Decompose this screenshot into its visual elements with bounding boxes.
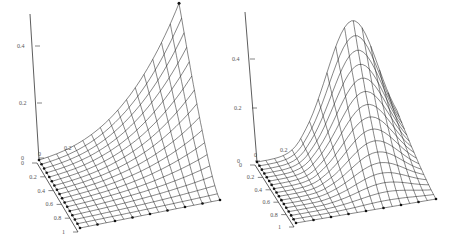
edge-node (166, 209, 169, 212)
x-tick-label: 0.4 (255, 187, 263, 193)
mesh-line-u (70, 166, 210, 211)
edge-node (61, 197, 64, 200)
edge-node (256, 161, 259, 164)
x-tick-label: 0.6 (46, 201, 54, 207)
y-tick-label: 0.2 (280, 147, 288, 153)
z-axis (30, 14, 39, 160)
edge-node (51, 180, 54, 183)
edge-node (45, 171, 48, 174)
edge-node (56, 188, 59, 191)
mesh-line-v (292, 150, 331, 217)
edge-node (40, 163, 43, 166)
edge-node (275, 191, 278, 194)
edge-node (280, 199, 283, 202)
x-tick-label: 0.2 (247, 174, 255, 180)
mesh-line-u (289, 182, 429, 212)
edge-node (131, 216, 134, 219)
edge-node (417, 201, 420, 204)
edge-node (435, 198, 438, 201)
edge-node (365, 210, 368, 213)
mesh-line-u (60, 117, 200, 194)
edge-node (283, 203, 286, 206)
edge-node (330, 216, 333, 219)
x-tick-label: 1 (278, 224, 281, 230)
mesh-line-v (57, 154, 98, 225)
edge-node (270, 184, 273, 187)
edge-node (58, 193, 61, 196)
z-axis (245, 12, 257, 162)
x-tick-label: 0 (21, 160, 24, 166)
mesh-line-v (397, 111, 436, 200)
edge-node (285, 206, 288, 209)
edge-node (48, 176, 51, 179)
edge-node (347, 213, 350, 216)
x-tick-label: 0.4 (37, 188, 45, 194)
edge-node (273, 187, 276, 190)
edge-node (287, 210, 290, 213)
edge-node (201, 202, 204, 205)
edge-node (278, 195, 281, 198)
mesh-line-u (54, 90, 194, 186)
edge-node (53, 184, 56, 187)
x-tick-label: 1 (62, 229, 65, 235)
edge-node (268, 180, 271, 183)
edge-node (68, 210, 71, 213)
edge-node (290, 214, 293, 217)
edge-node (292, 218, 295, 221)
y-tick-label: 0 (254, 152, 257, 158)
edge-node (261, 168, 264, 171)
z-tick-label: 0.4 (17, 43, 25, 49)
mesh-line-u (274, 117, 414, 189)
edge-node (258, 165, 261, 168)
mesh-line-v (162, 43, 203, 204)
mesh-line-v (144, 74, 185, 207)
edge-node (76, 222, 79, 225)
z-tick-label: 0.2 (234, 105, 242, 111)
edge-node (66, 205, 69, 208)
edge-node (79, 227, 82, 230)
edge-node (74, 218, 77, 221)
z-tick-label: 0.2 (19, 100, 27, 106)
mesh-line-v (362, 28, 401, 205)
x-tick-label: 0.8 (270, 212, 278, 218)
edge-node (38, 159, 41, 162)
surface-plot-right: 0.40.2000.20.40.60.8100.2 (232, 12, 437, 230)
mesh-line-v (65, 150, 106, 223)
mesh-line-u (57, 104, 197, 190)
peak-node (178, 2, 181, 5)
edge-node (43, 167, 46, 170)
edge-node (114, 220, 117, 223)
edge-node (400, 204, 403, 207)
mesh-line-v (353, 21, 392, 207)
x-tick-label: 0.8 (54, 215, 62, 221)
edge-node (149, 213, 152, 216)
edge-node (263, 172, 266, 175)
edge-node (295, 222, 298, 225)
edge-node (63, 201, 66, 204)
mesh-line-u (75, 186, 215, 220)
edge-node (312, 219, 315, 222)
y-tick-label: 0 (38, 151, 41, 157)
edge-node (265, 176, 268, 179)
mesh-line-v (371, 46, 410, 203)
mesh-line-u (72, 176, 212, 215)
mesh-line-v (92, 135, 133, 218)
edge-node (219, 199, 222, 202)
surface-plot-left: 0.40.2000.20.40.60.8100.2 (17, 2, 221, 235)
mesh-line-u (52, 76, 192, 181)
mesh-line-v (153, 59, 194, 205)
x-tick-label: 0.2 (29, 174, 37, 180)
edge-node (382, 207, 385, 210)
z-tick-label: 0.4 (232, 56, 240, 62)
edge-node (184, 206, 187, 209)
x-tick-label: 0 (239, 162, 242, 168)
edge-node (96, 223, 99, 226)
surface-plots-canvas: 0.40.2000.20.40.60.8100.2 0.40.2000.20.4… (0, 0, 453, 245)
edge-node (71, 214, 74, 217)
x-tick-label: 0.6 (262, 199, 270, 205)
